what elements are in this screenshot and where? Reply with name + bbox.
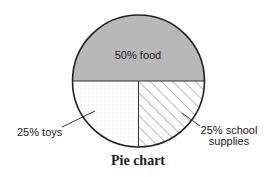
slice-toys — [73, 81, 139, 147]
label-school-line2: supplies — [209, 135, 250, 147]
label-food: 50% food — [115, 49, 161, 61]
chart-title: Pie chart — [111, 153, 165, 168]
pie-chart: 50% food 25% toys 25% school supplies Pi… — [0, 0, 272, 177]
label-toys: 25% toys — [17, 126, 63, 138]
slice-food — [73, 15, 205, 81]
slice-school-supplies — [139, 81, 205, 147]
